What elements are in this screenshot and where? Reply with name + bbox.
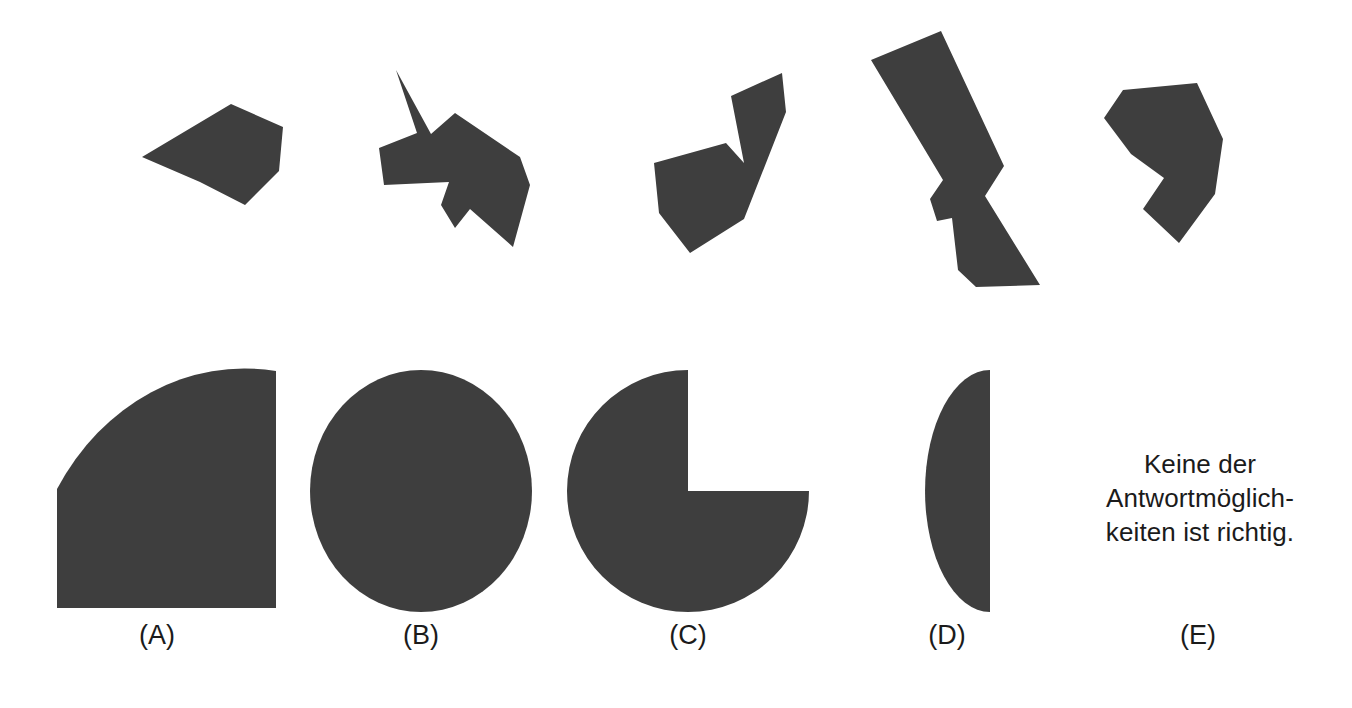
options-layer <box>0 0 1352 708</box>
option-label-d[interactable]: (D) <box>887 620 1007 651</box>
option-b-full-circle[interactable] <box>310 370 532 612</box>
option-e-answer-text[interactable]: Keine der Antwortmöglich- keiten ist ric… <box>1075 447 1325 549</box>
option-a-quarter-circle[interactable] <box>57 368 276 608</box>
option-e-line-3: keiten ist richtig. <box>1075 515 1325 549</box>
option-c-three-quarter-circle[interactable] <box>567 370 809 612</box>
option-label-c[interactable]: (C) <box>628 620 748 651</box>
option-e-line-2: Antwortmöglich- <box>1075 481 1325 515</box>
option-e-line-1: Keine der <box>1075 447 1325 481</box>
option-d-left-half-circle[interactable] <box>925 370 990 612</box>
option-label-row: (A) (B) (C) (D) (E) <box>0 620 1352 664</box>
option-label-e[interactable]: (E) <box>1138 620 1258 651</box>
option-label-a[interactable]: (A) <box>97 620 217 651</box>
worksheet-page: Keine der Antwortmöglich- keiten ist ric… <box>0 0 1352 708</box>
option-label-b[interactable]: (B) <box>361 620 481 651</box>
